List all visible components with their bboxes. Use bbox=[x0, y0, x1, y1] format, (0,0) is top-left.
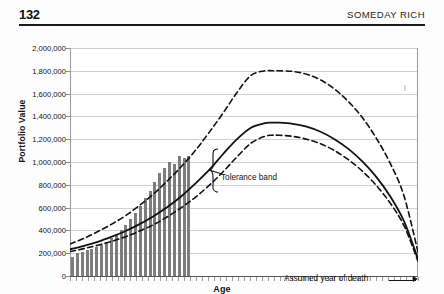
x-tick-mark bbox=[244, 277, 245, 281]
curve-series bbox=[70, 48, 418, 276]
x-tick-mark bbox=[94, 277, 95, 281]
x-tick-mark bbox=[118, 277, 119, 281]
x-tick-mark bbox=[160, 277, 161, 281]
portfolio-value-chart: Portfolio Value 2,000,0001,800,0001,600,… bbox=[0, 30, 444, 294]
x-tick-mark bbox=[136, 277, 137, 281]
x-tick-mark bbox=[268, 277, 269, 281]
x-tick-mark bbox=[142, 277, 143, 281]
x-tick-mark bbox=[202, 277, 203, 281]
book-title: SOMEDAY RICH bbox=[347, 9, 425, 20]
x-tick-mark bbox=[190, 277, 191, 281]
header-divider bbox=[19, 24, 425, 26]
x-tick-mark bbox=[148, 277, 149, 281]
x-tick-mark bbox=[178, 277, 179, 281]
x-tick-mark bbox=[196, 277, 197, 281]
x-tick-mark bbox=[112, 277, 113, 281]
page: 132 SOMEDAY RICH Portfolio Value 2,000,0… bbox=[0, 0, 444, 294]
y-tick-label: 600,000 bbox=[39, 203, 66, 212]
print-artifact bbox=[404, 85, 406, 91]
x-tick-mark bbox=[250, 277, 251, 281]
y-tick-label: 2,000,000 bbox=[32, 44, 66, 53]
x-tick-mark bbox=[376, 277, 377, 281]
y-tick-label: 400,000 bbox=[39, 226, 66, 235]
assumed-year-of-death-label: Assumed year of death bbox=[284, 274, 368, 283]
y-tick-label: 800,000 bbox=[39, 180, 66, 189]
x-tick-mark bbox=[106, 277, 107, 281]
x-tick-mark bbox=[130, 277, 131, 281]
series-line bbox=[70, 135, 418, 261]
x-tick-mark bbox=[166, 277, 167, 281]
x-tick-mark bbox=[280, 277, 281, 281]
x-tick-mark bbox=[226, 277, 227, 281]
x-tick-mark bbox=[124, 277, 125, 281]
x-tick-mark bbox=[256, 277, 257, 281]
x-tick-mark bbox=[382, 277, 383, 281]
x-tick-mark bbox=[274, 277, 275, 281]
x-axis-title: Age bbox=[0, 284, 444, 294]
page-number: 132 bbox=[19, 7, 40, 22]
death-arrow-line bbox=[389, 280, 416, 281]
x-tick-mark bbox=[184, 277, 185, 281]
y-tick-label: 1,600,000 bbox=[32, 89, 66, 98]
y-axis-ticks: 2,000,0001,800,0001,600,0001,400,0001,20… bbox=[0, 48, 66, 276]
x-tick-mark bbox=[88, 277, 89, 281]
y-tick-label: 1,800,000 bbox=[32, 66, 66, 75]
x-tick-mark bbox=[220, 277, 221, 281]
y-tick-label: 200,000 bbox=[39, 249, 66, 258]
x-tick-mark bbox=[100, 277, 101, 281]
x-tick-mark bbox=[214, 277, 215, 281]
death-arrow-head bbox=[413, 276, 418, 282]
x-tick-mark bbox=[370, 277, 371, 281]
x-tick-mark bbox=[418, 277, 419, 281]
x-tick-mark bbox=[262, 277, 263, 281]
x-tick-mark bbox=[70, 277, 71, 281]
series-line bbox=[70, 70, 418, 252]
y-tick-label: 1,000,000 bbox=[32, 158, 66, 167]
tolerance-band-label: Tolerance band bbox=[221, 173, 277, 182]
x-tick-mark bbox=[172, 277, 173, 281]
y-tick-label: 1,200,000 bbox=[32, 135, 66, 144]
x-tick-mark bbox=[232, 277, 233, 281]
x-tick-mark bbox=[76, 277, 77, 281]
y-tick-label: 1,400,000 bbox=[32, 112, 66, 121]
running-head: 132 SOMEDAY RICH bbox=[0, 0, 444, 30]
x-tick-mark bbox=[208, 277, 209, 281]
x-tick-mark bbox=[82, 277, 83, 281]
x-tick-mark bbox=[154, 277, 155, 281]
x-tick-mark bbox=[238, 277, 239, 281]
